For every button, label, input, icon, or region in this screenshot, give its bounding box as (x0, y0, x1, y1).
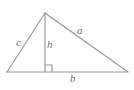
geometry-diagram: c h a b (0, 0, 134, 90)
label-altitude-h: h (47, 39, 53, 50)
segment-side-c (7, 13, 45, 72)
label-side-a: a (77, 25, 83, 36)
right-angle-marker (45, 65, 52, 72)
label-base-b: b (70, 73, 76, 84)
label-side-c: c (16, 37, 21, 48)
segment-side-a (45, 13, 128, 72)
